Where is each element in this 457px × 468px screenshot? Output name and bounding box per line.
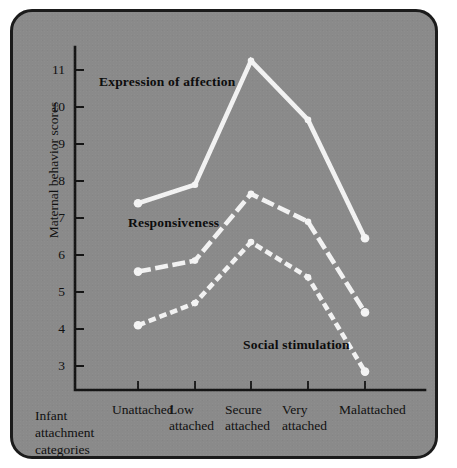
x-tick-label: Malattached [339,402,423,418]
series-label-responsiveness: Responsiveness [128,215,219,231]
y-tick-label: 4 [33,322,65,336]
data-point [361,234,370,243]
data-point [305,274,312,281]
series-line-responsiveness [138,194,365,313]
data-point [248,58,255,65]
data-point [361,367,370,376]
chart-figure: 34567891011 UnattachedLow attachedSecure… [0,0,457,468]
data-point [361,308,370,317]
data-point [192,300,199,307]
data-point [134,321,143,330]
data-point [305,218,312,225]
series-label-social-stimulation: Social stimulation [243,337,350,353]
series-label-expression-of-affection: Expression of affection [99,74,235,90]
data-point [134,267,143,276]
y-tick-label: 11 [33,63,65,77]
x-axis-title: Infant attachment categories [35,408,127,459]
data-point [248,191,255,198]
y-tick-label: 5 [33,285,65,299]
y-tick-marks [75,70,84,366]
chart-plate: 34567891011 UnattachedLow attachedSecure… [10,9,438,459]
y-tick-label: 3 [33,359,65,373]
data-point [305,117,312,124]
data-point [248,239,255,246]
data-point [134,199,143,208]
data-point [192,181,199,188]
data-point [192,257,199,264]
y-axis-title: Maternal behavior scores [46,85,62,255]
x-tick-marks [138,381,365,390]
